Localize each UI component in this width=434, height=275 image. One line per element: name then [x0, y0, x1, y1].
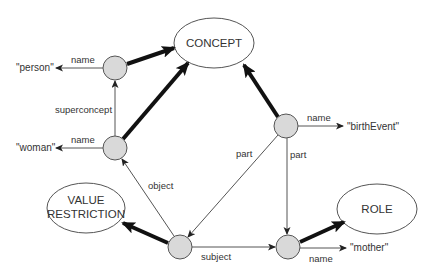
node-mother: [276, 235, 300, 259]
label-subject: subject: [201, 251, 231, 262]
edge-woman-to-concept: [123, 63, 188, 139]
label-object: object: [148, 180, 174, 191]
label-name-person: name: [71, 54, 95, 65]
label-name-woman: name: [71, 134, 95, 145]
semantic-network-diagram: CONCEPT VALUE RESTRICTION ROLE ": [0, 0, 434, 275]
class-value-restriction: VALUE RESTRICTION: [47, 183, 125, 233]
literal-woman: "woman": [16, 142, 56, 153]
edge-birthevent-to-concept: [244, 65, 278, 117]
label-superconcept: superconcept: [55, 104, 112, 115]
node-birthevent: [274, 114, 298, 138]
label-name-birthevent: name: [307, 112, 331, 123]
edge-mother-to-role: [300, 222, 344, 242]
class-role-label: ROLE: [361, 203, 393, 215]
node-restriction: [168, 235, 192, 259]
node-woman: [103, 136, 127, 160]
label-part-left: part: [236, 148, 253, 159]
literal-birthevent: "birthEvent": [347, 121, 400, 132]
class-concept-label: CONCEPT: [186, 37, 242, 49]
label-part-right: part: [290, 149, 307, 160]
class-value-restriction-label-line1: VALUE: [68, 194, 105, 206]
edge-restriction-to-valuerestriction: [123, 223, 168, 243]
class-role: ROLE: [337, 184, 417, 234]
instance-of-edges: [123, 48, 344, 243]
literal-person: "person": [16, 62, 54, 73]
class-value-restriction-label-line2: RESTRICTION: [47, 208, 125, 220]
literal-mother: "mother": [350, 242, 389, 253]
class-concept: CONCEPT: [174, 18, 254, 68]
edge-person-to-concept: [127, 48, 174, 64]
edge-part-left: [188, 135, 278, 237]
node-person: [103, 56, 127, 80]
label-name-mother: name: [309, 253, 333, 264]
